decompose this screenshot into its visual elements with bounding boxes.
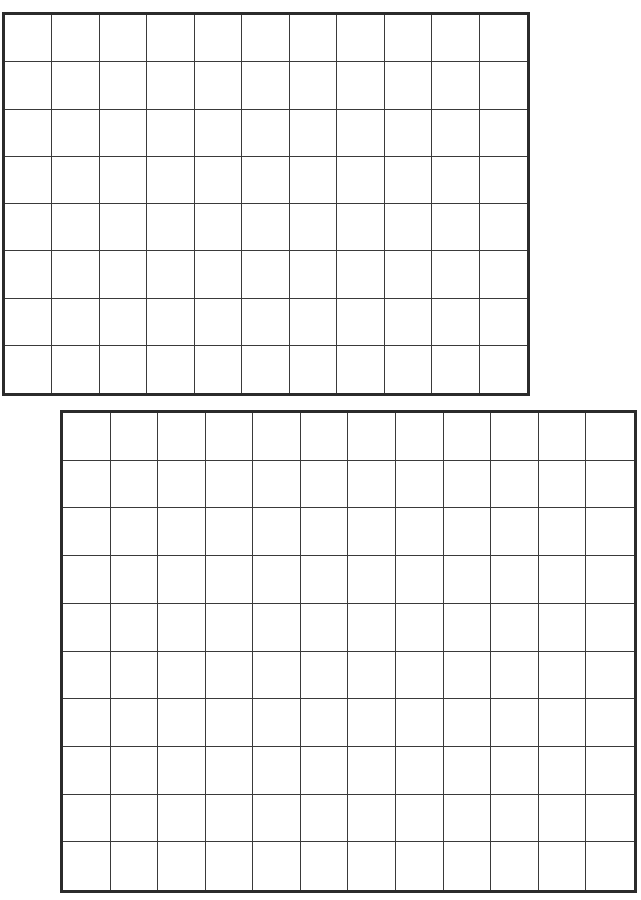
grid-cell: [63, 556, 111, 604]
grid-cell: [348, 747, 396, 795]
grid-cell: [52, 110, 99, 157]
grid-cell: [206, 413, 254, 461]
grid-cell: [63, 604, 111, 652]
grid-cell: [158, 652, 206, 700]
grid-cell: [195, 299, 242, 346]
grid-cell: [195, 204, 242, 251]
grid-cell: [491, 556, 539, 604]
grid-cell: [491, 699, 539, 747]
grid-cell: [5, 346, 52, 393]
grid-cell: [491, 795, 539, 843]
grid-cell: [52, 299, 99, 346]
grid-cell: [348, 413, 396, 461]
grid-cell: [432, 204, 479, 251]
grid-cell: [5, 299, 52, 346]
grid-cell: [52, 346, 99, 393]
grid-cell: [158, 747, 206, 795]
grid-cell: [348, 604, 396, 652]
grid-cell: [63, 508, 111, 556]
grid-cell: [195, 110, 242, 157]
grid-cell: [337, 15, 384, 62]
grid-cell: [301, 556, 349, 604]
grid-cell: [432, 251, 479, 298]
grid-cell: [432, 15, 479, 62]
grid-cell: [253, 461, 301, 509]
grid-cell: [586, 699, 634, 747]
grid-cell: [52, 157, 99, 204]
grid-cell: [290, 346, 337, 393]
grid-cell: [301, 747, 349, 795]
grid-cell: [480, 204, 527, 251]
grid-cell: [301, 461, 349, 509]
grid-cell: [301, 652, 349, 700]
grid-cell: [52, 251, 99, 298]
grid-cell: [301, 413, 349, 461]
grid-cell: [63, 461, 111, 509]
grid-cell: [158, 604, 206, 652]
grid-cell: [337, 251, 384, 298]
grid-cell: [301, 604, 349, 652]
grid-cell: [111, 508, 159, 556]
grid-cell: [111, 413, 159, 461]
grid-cell: [242, 204, 289, 251]
grid-cell: [253, 556, 301, 604]
grid-cell: [491, 842, 539, 890]
grid-cell: [290, 15, 337, 62]
grid-cell: [5, 110, 52, 157]
grid-cell: [290, 299, 337, 346]
grid-cell: [206, 652, 254, 700]
grid-cell: [301, 699, 349, 747]
grid-cell: [52, 62, 99, 109]
grid-cell: [432, 110, 479, 157]
grid-cell: [242, 110, 289, 157]
grid-paper-page: [0, 0, 641, 900]
grid-cell: [100, 62, 147, 109]
grid-cell: [444, 604, 492, 652]
grid-cell: [491, 461, 539, 509]
grid-cell: [396, 461, 444, 509]
grid-cell: [63, 795, 111, 843]
grid-cell: [348, 556, 396, 604]
grid-cell: [396, 652, 444, 700]
grid-cell: [539, 699, 587, 747]
grid-cell: [290, 251, 337, 298]
grid-cell: [111, 747, 159, 795]
grid-cell: [290, 157, 337, 204]
grid-cell: [432, 346, 479, 393]
grid-cell: [147, 62, 194, 109]
grid-cell: [301, 508, 349, 556]
grid-cell: [586, 747, 634, 795]
grid-cell: [586, 556, 634, 604]
grid-cell: [5, 204, 52, 251]
grid-cell: [337, 204, 384, 251]
grid-cell: [253, 413, 301, 461]
grid-cell: [158, 461, 206, 509]
grid-cell: [444, 795, 492, 843]
top-grid: [2, 12, 530, 396]
grid-cell: [63, 747, 111, 795]
grid-cell: [253, 604, 301, 652]
grid-cell: [253, 699, 301, 747]
grid-cell: [5, 62, 52, 109]
grid-cell: [444, 747, 492, 795]
grid-cell: [539, 413, 587, 461]
grid-cell: [147, 15, 194, 62]
grid-cell: [253, 508, 301, 556]
grid-cell: [63, 842, 111, 890]
grid-cell: [480, 15, 527, 62]
grid-cell: [242, 346, 289, 393]
grid-cell: [100, 204, 147, 251]
grid-cell: [396, 747, 444, 795]
grid-cell: [480, 299, 527, 346]
grid-cell: [147, 157, 194, 204]
grid-cell: [586, 652, 634, 700]
grid-cell: [206, 604, 254, 652]
grid-cell: [385, 204, 432, 251]
grid-cell: [348, 842, 396, 890]
grid-cell: [195, 251, 242, 298]
grid-cell: [111, 556, 159, 604]
grid-cell: [539, 604, 587, 652]
grid-cell: [5, 15, 52, 62]
grid-cell: [206, 699, 254, 747]
grid-cell: [586, 842, 634, 890]
